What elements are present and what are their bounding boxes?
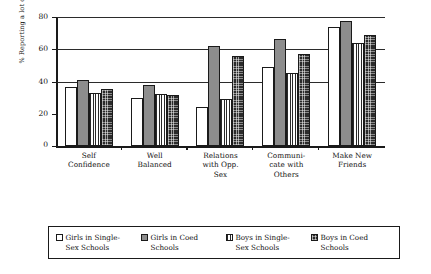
bar-group <box>122 17 188 146</box>
bar <box>196 107 208 146</box>
legend-item: Girls in Coed Schools <box>139 233 224 252</box>
legend-label: Girls in Single- Sex Schools <box>66 233 120 252</box>
bar <box>101 89 113 146</box>
x-axis-category-labels: SelfConfidenceWellBalancedRelationswith … <box>56 151 385 179</box>
bar-group <box>253 17 319 146</box>
category-label: Make NewFriends <box>319 151 385 179</box>
bar <box>286 73 298 146</box>
group-separator-tick <box>318 146 319 150</box>
y-tick-label-60: 60 <box>22 45 48 53</box>
y-tick-label-20: 20 <box>22 110 48 118</box>
category-label: Relationswith Opp.Sex <box>188 151 254 179</box>
gray-swatch <box>141 234 148 241</box>
bar <box>131 98 143 146</box>
x-axis-line <box>56 146 385 148</box>
group-separator-tick <box>186 146 187 150</box>
legend: Girls in Single- Sex SchoolsGirls in Coe… <box>48 226 400 259</box>
category-label: WellBalanced <box>122 151 188 179</box>
bar-group <box>188 17 254 146</box>
tick-0 <box>52 146 57 147</box>
white-swatch <box>56 234 63 241</box>
bar <box>143 85 155 146</box>
dark-dotted-swatch <box>311 234 318 241</box>
chart-figure: % Reporting a lot of Benefit 80 60 40 20… <box>0 0 431 274</box>
bar <box>352 43 364 146</box>
bar <box>155 94 167 146</box>
bar <box>65 87 77 146</box>
bar <box>274 39 286 146</box>
category-label: SelfConfidence <box>56 151 122 179</box>
legend-item: Boys in Coed Schools <box>309 233 394 252</box>
bar-groups <box>56 17 385 146</box>
y-tick-label-80: 80 <box>22 13 48 21</box>
group-separator-tick <box>252 146 253 150</box>
legend-label: Boys in Coed Schools <box>321 233 369 252</box>
bar <box>232 56 244 146</box>
striped-swatch <box>226 234 233 241</box>
bar <box>77 80 89 146</box>
legend-item: Boys in Single- Sex Schools <box>224 233 309 252</box>
y-tick-label-0: 0 <box>22 141 48 149</box>
group-separator-tick <box>121 146 122 150</box>
bar-group <box>319 17 385 146</box>
bar <box>262 67 274 146</box>
bar <box>364 35 376 146</box>
bar <box>89 93 101 146</box>
bar <box>208 46 220 146</box>
y-tick-label-40: 40 <box>22 78 48 86</box>
legend-label: Girls in Coed Schools <box>151 233 199 252</box>
bar <box>298 54 310 146</box>
legend-label: Boys in Single- Sex Schools <box>236 233 290 252</box>
plot-area: 80 60 40 20 0 <box>56 17 385 146</box>
bar-group <box>56 17 122 146</box>
bar <box>220 99 232 146</box>
legend-item: Girls in Single- Sex Schools <box>54 233 139 252</box>
category-label: Communi-cate withOthers <box>253 151 319 179</box>
bar <box>167 95 179 146</box>
bar <box>328 27 340 146</box>
bar <box>340 21 352 146</box>
